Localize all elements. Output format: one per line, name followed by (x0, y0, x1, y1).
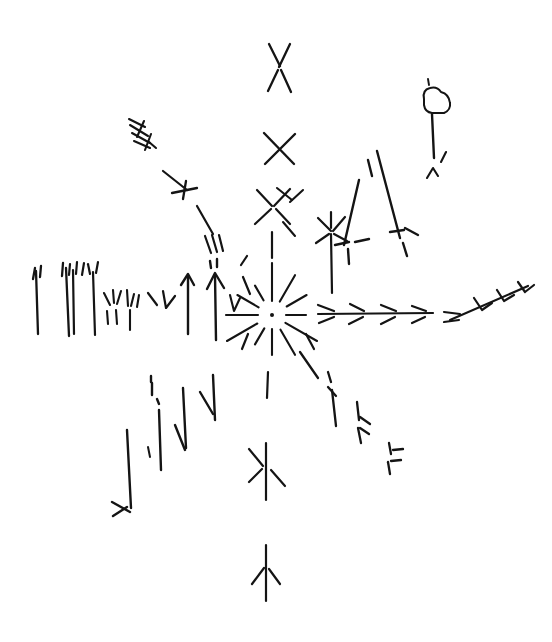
bird-crest (428, 79, 429, 85)
starburst-center-dot (270, 313, 274, 317)
canvas-background (0, 0, 552, 642)
sketch-canvas (0, 0, 552, 642)
sketch-page (0, 0, 552, 642)
south-stem (267, 372, 268, 398)
